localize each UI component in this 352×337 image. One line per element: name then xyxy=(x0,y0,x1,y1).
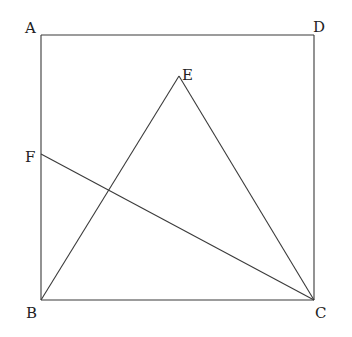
geometry-diagram: A D E F B C xyxy=(0,0,352,337)
label-d: D xyxy=(313,18,325,36)
label-a: A xyxy=(24,19,36,37)
label-b: B xyxy=(26,304,37,322)
segment-be xyxy=(41,76,179,300)
point-labels: A D E F B C xyxy=(24,18,326,322)
segment-fc xyxy=(41,154,314,300)
label-f: F xyxy=(25,148,35,166)
diagram-segments xyxy=(41,35,314,300)
segment-ec xyxy=(179,76,314,300)
label-c: C xyxy=(315,304,326,322)
label-e: E xyxy=(182,66,193,84)
